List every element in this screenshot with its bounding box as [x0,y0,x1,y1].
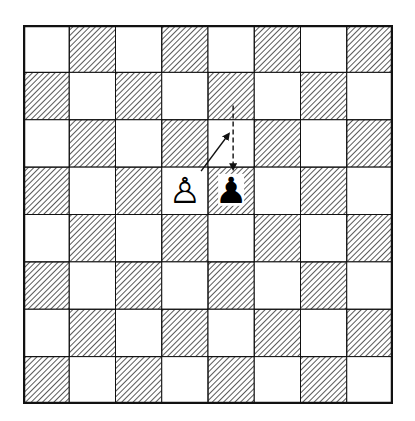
light-square [301,120,347,167]
light-square [254,72,300,119]
light-square [254,262,300,309]
dark-square [162,215,208,262]
dark-square [69,215,115,262]
light-square [23,120,69,167]
light-square [347,357,393,404]
light-square [162,357,208,404]
dark-square [254,309,300,356]
dark-square [254,215,300,262]
light-square [116,25,162,72]
light-square [208,25,254,72]
dark-square [23,357,69,404]
light-square [23,309,69,356]
dark-square [208,357,254,404]
dark-square [162,25,208,72]
dark-square [208,262,254,309]
light-square [208,215,254,262]
light-square [347,167,393,214]
chess-board-svg: ♙♟ [23,25,393,404]
light-square [254,357,300,404]
light-square [69,72,115,119]
dark-square [162,309,208,356]
light-square [301,309,347,356]
dark-square [23,167,69,214]
chess-board: ♙♟ [23,25,393,404]
board-squares [23,25,393,404]
white-pawn-icon: ♙ [169,170,201,211]
black-pawn-icon: ♟ [215,170,247,211]
dark-square [301,167,347,214]
dark-square [301,262,347,309]
dark-square [208,72,254,119]
light-square [301,215,347,262]
light-square [162,72,208,119]
dark-square [116,167,162,214]
light-square [208,309,254,356]
dark-square [347,309,393,356]
light-square [347,72,393,119]
light-square [69,262,115,309]
light-square [69,167,115,214]
dark-square [347,25,393,72]
dark-square [301,72,347,119]
light-square [116,215,162,262]
light-square [347,262,393,309]
dark-square [162,120,208,167]
light-square [208,120,254,167]
dark-square [347,120,393,167]
dark-square [116,262,162,309]
light-square [254,167,300,214]
dark-square [254,25,300,72]
dark-square [116,357,162,404]
light-square [116,120,162,167]
dark-square [347,215,393,262]
dark-square [69,25,115,72]
dark-square [116,72,162,119]
light-square [162,262,208,309]
dark-square [23,262,69,309]
light-square [301,25,347,72]
light-square [116,309,162,356]
light-square [69,357,115,404]
dark-square [301,357,347,404]
light-square [23,215,69,262]
dark-square [69,309,115,356]
light-square [23,25,69,72]
dark-square [69,120,115,167]
dark-square [23,72,69,119]
dark-square [254,120,300,167]
